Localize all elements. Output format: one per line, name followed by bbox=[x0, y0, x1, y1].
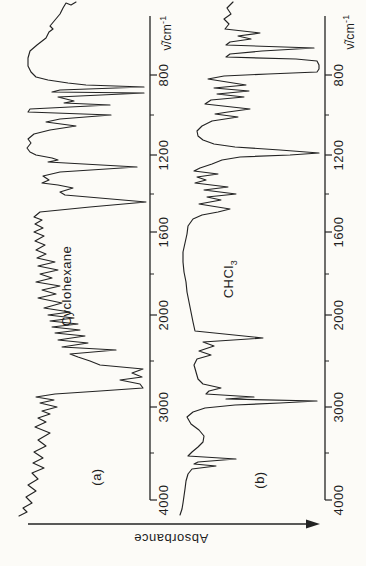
figure: ν̃/cm-1 ν̃/cm-1 Cyclohexane CHCl3 (a) (b… bbox=[0, 0, 366, 566]
tick-label-b-800: 800 bbox=[331, 63, 346, 86]
wavenumber-exponent-b: -1 bbox=[341, 14, 351, 23]
tick-label-b-3000: 3000 bbox=[331, 392, 346, 423]
tick-label-a-4000: 4000 bbox=[156, 485, 171, 516]
wavenumber-axis-title-b: ν̃/cm-1 bbox=[341, 14, 357, 49]
compound-label-chloroform: CHCl3 bbox=[221, 260, 239, 299]
wavenumber-symbol-b: ν̃/cm bbox=[343, 23, 357, 50]
wavenumber-symbol-a: ν̃/cm bbox=[160, 24, 174, 51]
panel-tag-b: (b) bbox=[252, 471, 267, 488]
spectrum-trace-a bbox=[19, 2, 146, 516]
panel-tag-a: (a) bbox=[89, 468, 104, 485]
spectrum-trace-b bbox=[180, 2, 319, 515]
compound-label-chloroform-subscript: 3 bbox=[229, 260, 239, 266]
tick-label-b-1200: 1200 bbox=[331, 140, 346, 171]
absorbance-axis-label: Absorbance bbox=[134, 531, 208, 546]
compound-label-cyclohexane: Cyclohexane bbox=[59, 246, 74, 327]
tick-label-a-800: 800 bbox=[156, 63, 171, 86]
tick-label-b-2000: 2000 bbox=[331, 300, 346, 331]
spectra-plot bbox=[0, 0, 366, 566]
absorbance-arrowhead-icon bbox=[306, 520, 320, 529]
wavenumber-exponent-a: -1 bbox=[158, 15, 168, 24]
compound-label-chloroform-text: CHCl bbox=[221, 265, 236, 298]
tick-label-a-1600: 1600 bbox=[156, 217, 171, 248]
tick-label-a-3000: 3000 bbox=[156, 392, 171, 423]
tick-label-b-1600: 1600 bbox=[331, 217, 346, 248]
tick-label-a-1200: 1200 bbox=[156, 140, 171, 171]
wavenumber-axis-title-a: ν̃/cm-1 bbox=[158, 15, 174, 50]
tick-label-a-2000: 2000 bbox=[156, 300, 171, 331]
tick-label-b-4000: 4000 bbox=[331, 485, 346, 516]
